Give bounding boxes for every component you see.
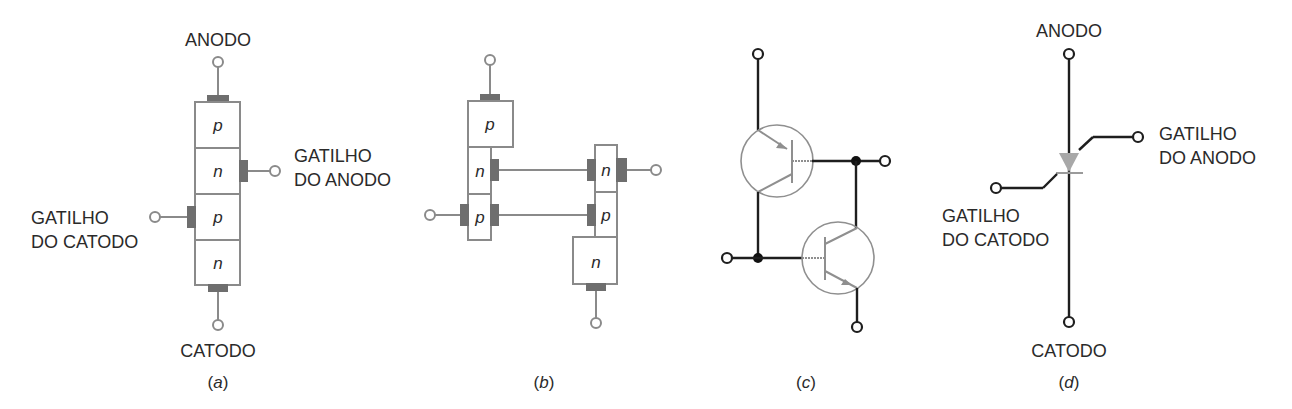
npn-collector [825,228,857,244]
anode-terminal [485,55,495,65]
diode-triangle-icon [1059,153,1079,172]
cathode-contact-pad [586,283,606,291]
panel-a: ANODO p n p n GATILHO DO ANODO GATILHO D… [31,30,391,392]
cathode-gate-label-line2: DO CATODO [942,230,1049,250]
cathode-gate-pad [460,204,469,226]
npn-emitter [825,271,857,288]
layer-label: p [474,208,484,227]
layer-label: n [601,161,610,180]
contact-pad [490,159,499,181]
layer-label: p [600,206,610,225]
anode-gate-pad [616,158,627,182]
cathode-gate-pad [187,206,196,228]
anode-gate-label-line1: GATILHO [1159,124,1237,144]
anode-gate-terminal [880,156,890,166]
cathode-terminal [1064,317,1074,327]
anode-terminal [753,49,763,59]
cathode-gate-lead [1043,174,1057,188]
cathode-gate-terminal [425,210,435,220]
cathode-terminal [852,322,862,332]
anode-gate-label-line1: GATILHO [294,146,372,166]
cathode-terminal [591,318,601,328]
anode-gate-pad [239,160,248,182]
panel-b: p n p n p n (b) [425,55,661,392]
layer-label: n [475,162,484,181]
anode-label: ANODO [1036,21,1102,41]
layer-label: p [212,208,222,227]
anode-terminal [213,57,223,67]
pnp-collector [758,174,792,192]
cathode-gate-label-line1: GATILHO [942,206,1020,226]
cathode-gate-terminal [722,253,732,263]
contact-pad [490,204,499,226]
layer-label: p [484,115,494,134]
cathode-gate-terminal [991,183,1001,193]
panel-caption: (b) [534,373,555,392]
layer-label: p [212,116,222,135]
cathode-contact-pad [208,284,228,292]
panel-c: (c) [722,49,890,392]
panel-d: ANODO GATILHO DO ANODO GATILHO DO CATODO… [942,21,1256,392]
cathode-label: CATODO [180,341,255,361]
cathode-gate-terminal [150,212,160,222]
panel-caption: (d) [1059,373,1080,392]
anode-gate-label-line2: DO ANODO [294,170,391,190]
contact-pad [587,204,596,226]
anode-terminal [1064,49,1074,59]
anode-gate-lead [1079,137,1093,150]
layer-label: n [213,254,222,273]
cathode-gate-label-line2: DO CATODO [31,232,138,252]
contact-pad [587,159,596,181]
anode-gate-label-line2: DO ANODO [1159,148,1256,168]
layer-label: n [213,162,222,181]
panel-caption: (c) [796,373,816,392]
anode-label: ANODO [185,30,251,50]
anode-gate-terminal [270,166,280,176]
cathode-terminal [213,320,223,330]
layer-label: n [591,253,600,272]
cathode-gate-label-line1: GATILHO [31,208,109,228]
cathode-label: CATODO [1031,341,1106,361]
anode-gate-terminal [651,165,661,175]
scs-figure: ANODO p n p n GATILHO DO ANODO GATILHO D… [0,0,1292,409]
anode-gate-terminal [1133,132,1143,142]
panel-caption: (a) [208,373,229,392]
